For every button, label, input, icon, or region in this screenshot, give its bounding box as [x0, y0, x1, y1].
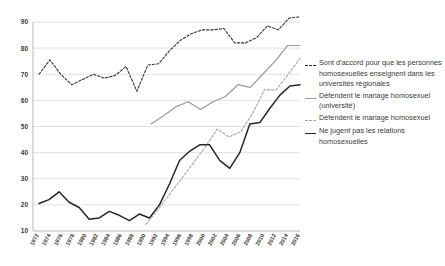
series-line — [151, 46, 300, 124]
x-axis-tick-label: 1974 — [41, 232, 53, 247]
x-axis-tick-label: 1996 — [171, 233, 182, 247]
x-axis-tick-label: 2012 — [266, 233, 277, 247]
legend-item-label: Défendent le mariage homosexuel — [319, 113, 430, 124]
x-axis-tick-label: 1980 — [76, 233, 87, 247]
legend-item: Sont d'accord pour que les personnes hom… — [305, 58, 445, 90]
chart-figure: 102030405060708090 197219741976197819801… — [0, 0, 445, 266]
x-axis-tick-label: 2008 — [242, 233, 253, 247]
legend-item-label: Ne jugent pas les relations homosexuelle… — [319, 126, 445, 147]
x-axis-tick-label: 2004 — [219, 232, 231, 247]
legend-item: Défendent le mariage homosexuel (univers… — [305, 91, 445, 112]
x-axis-tick-label: 1994 — [159, 232, 171, 247]
y-axis-tick-labels: 102030405060708090 — [21, 18, 29, 234]
y-axis-tick-label: 50 — [21, 123, 29, 130]
x-axis-tick-label: 2006 — [230, 233, 241, 247]
x-axis-tick-label: 1988 — [124, 233, 135, 247]
x-axis-tick-label: 1986 — [112, 233, 123, 247]
legend-item: Défendent le mariage homosexuel — [305, 113, 445, 125]
solid-grey-line-icon — [305, 94, 316, 103]
legend-item-label: Défendent le mariage homosexuel (univers… — [319, 91, 445, 112]
x-axis-tick-label: 1976 — [52, 233, 63, 247]
x-axis-tick-label: 1998 — [183, 233, 194, 247]
x-axis-tick-label: 2016 — [290, 233, 301, 247]
y-axis-tick-label: 70 — [21, 71, 29, 78]
x-axis-tick-label: 1984 — [100, 232, 112, 247]
chart-legend: Sont d'accord pour que les personnes hom… — [305, 58, 445, 148]
x-axis-tick-label: 1972 — [29, 233, 40, 247]
series-line — [39, 17, 300, 91]
x-axis-tick-label: 2014 — [278, 232, 290, 247]
legend-item-label: Sont d'accord pour que les personnes hom… — [319, 58, 445, 90]
x-axis-tick-labels: 1972197419761978198019821984198619881990… — [29, 232, 301, 247]
y-axis-tick-label: 10 — [21, 227, 29, 234]
y-axis-tick-label: 90 — [21, 18, 29, 25]
y-axis-tick-label: 20 — [21, 201, 29, 208]
x-axis-tick-label: 1992 — [147, 233, 158, 247]
x-axis-tick-label: 2000 — [195, 233, 206, 247]
x-axis-tick-label: 2002 — [207, 233, 218, 247]
x-axis-tick-label: 1982 — [88, 233, 99, 247]
dashed-dark-line-icon — [305, 61, 316, 70]
y-axis-tick-label: 40 — [21, 149, 29, 156]
x-axis-tick-label: 1978 — [64, 233, 75, 247]
y-axis-tick-label: 30 — [21, 175, 29, 182]
legend-item: Ne jugent pas les relations homosexuelle… — [305, 126, 445, 147]
y-axis-tick-label: 80 — [21, 45, 29, 52]
x-axis-tick-label: 2010 — [254, 233, 265, 247]
y-axis-tick-label: 60 — [21, 97, 29, 104]
solid-black-line-icon — [305, 129, 316, 138]
x-axis-tick-label: 1990 — [136, 233, 147, 247]
dashed-grey-line-icon — [305, 116, 316, 125]
series-line — [146, 59, 300, 225]
